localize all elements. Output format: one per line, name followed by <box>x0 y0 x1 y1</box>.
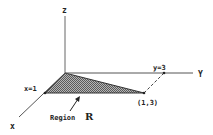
corner-point <box>143 92 146 95</box>
y-intercept-label: y=3 <box>153 64 166 72</box>
x-axis <box>19 73 65 117</box>
region-diagram: z Y x x=1 y=3 (1,3) Region R <box>0 0 213 135</box>
region-r-shape <box>45 73 144 93</box>
y-intercept-point <box>163 72 166 75</box>
region-label-name: R <box>85 111 94 122</box>
x-intercept-label: x=1 <box>24 85 37 93</box>
corner-point-label: (1,3) <box>137 99 158 107</box>
x-intercept-point <box>44 92 47 95</box>
arrow-head-icon <box>75 96 80 102</box>
region-label-prefix: Region <box>50 114 75 122</box>
z-axis-label: z <box>62 6 67 15</box>
dashed-guide-line <box>144 73 164 93</box>
region-arrow <box>70 99 78 111</box>
y-axis-label: Y <box>198 70 203 79</box>
x-axis-label: x <box>10 122 15 131</box>
